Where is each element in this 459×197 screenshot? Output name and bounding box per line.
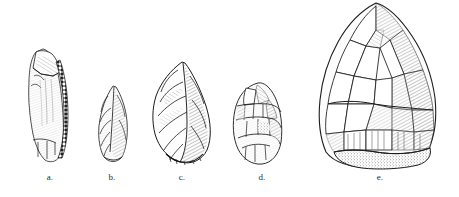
lithic-plate: a. b. c. d. e.	[0, 0, 459, 197]
scar-e21	[392, 130, 414, 150]
figure-label-e: e.	[368, 172, 392, 182]
scar-d1	[244, 88, 256, 105]
scar-e19	[344, 130, 366, 150]
figure-label-c: c.	[170, 172, 194, 182]
artifact-d-ovate-biface	[233, 83, 281, 164]
figure-label-a: a.	[38, 172, 62, 182]
shade-d1	[237, 106, 246, 120]
scar-e12	[374, 78, 392, 108]
figure-label-b: b.	[100, 172, 124, 182]
figure-label-d: d.	[250, 172, 274, 182]
scar-e16	[392, 108, 414, 132]
scar-e17	[412, 110, 434, 132]
plate-drawing	[0, 0, 459, 197]
scar-e20	[366, 130, 392, 150]
